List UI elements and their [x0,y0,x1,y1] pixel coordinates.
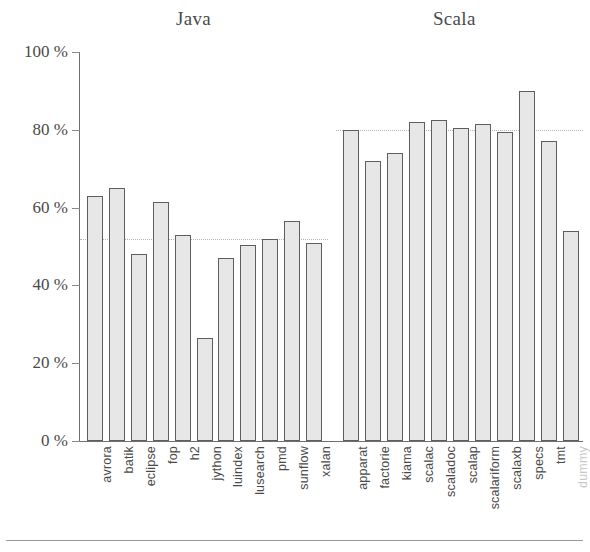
y-axis-line [79,52,80,442]
y-tick-label-60: 60 % [33,199,68,216]
bar-apparat [343,130,359,441]
bar-scalariform [475,124,491,441]
y-tick-mark-100 [72,52,80,53]
x-label-specs: specs [532,446,546,480]
x-label-lusearch: lusearch [253,446,267,495]
x-label-h2: h2 [188,446,202,460]
y-tick-label-0: 0 % [41,432,68,449]
y-tick-mark-80 [72,130,80,131]
x-label-factorie: factorie [378,446,392,489]
bar-eclipse [131,254,147,441]
group-title-java: Java [176,8,211,30]
x-label-fop: fop [166,446,180,464]
y-tick-label-40: 40 % [33,276,68,293]
x-label-pmd: pmd [275,446,289,471]
group-title-scala: Scala [433,8,476,30]
x-axis-line [79,441,583,442]
y-tick-label-100: 100 % [24,43,68,60]
bar-avrora [87,196,103,441]
bar-specs [519,91,535,441]
bar-dummy [563,231,579,441]
bar-scalap [453,128,469,441]
x-label-batik: batik [122,446,136,473]
bar-kiama [387,153,403,441]
x-label-scalariform: scalariform [488,446,502,509]
y-tick-mark-20 [72,363,80,364]
bar-xalan [306,243,322,441]
x-label-scalaxb: scalaxb [510,446,524,490]
x-label-jython: jython [210,446,224,481]
bar-fop [153,202,169,441]
bottom-rule [6,540,583,541]
y-tick-label-80: 80 % [33,121,68,138]
x-label-sunflow: sunflow [297,446,311,490]
x-label-luindex: luindex [231,446,245,487]
x-label-kiama: kiama [400,446,414,480]
bar-scalac [409,122,425,441]
bar-batik [109,188,125,441]
x-label-tmt: tmt [554,446,568,464]
x-label-eclipse: eclipse [144,446,158,486]
x-label-dummy: dummy [576,446,590,488]
y-tick-mark-60 [72,208,80,209]
y-tick-mark-0 [72,441,80,442]
bar-sunflow [284,221,300,441]
bar-h2 [175,235,191,441]
y-tick-mark-40 [72,285,80,286]
bar-jython [197,338,213,441]
bar-tmt [541,141,557,441]
bar-pmd [262,239,278,441]
bar-scaladoc [431,120,447,441]
y-tick-label-20: 20 % [33,354,68,371]
x-label-scalap: scalap [466,446,480,483]
bar-scalaxb [497,132,513,441]
bar-lusearch [240,245,256,441]
x-label-scalac: scalac [422,446,436,483]
x-label-apparat: apparat [356,446,370,490]
bar-luindex [218,258,234,441]
x-label-xalan: xalan [319,446,333,477]
x-label-avrora: avrora [100,446,114,483]
bar-factorie [365,161,381,441]
x-label-scaladoc: scaladoc [444,446,458,497]
